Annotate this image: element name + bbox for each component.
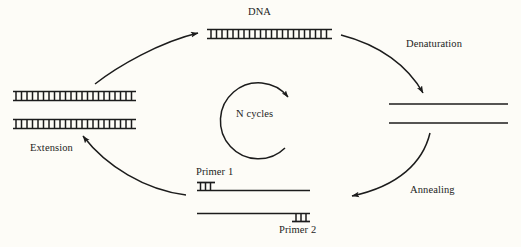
primer2-ladder (292, 214, 310, 222)
arrow-repeat-path (95, 33, 198, 84)
denaturation-label: Denaturation (406, 38, 462, 49)
dna-label: DNA (248, 6, 271, 17)
annealed-primer-strands (197, 183, 310, 222)
pcr-cycle-diagram: DNA Denaturation Annealing Extension N c… (0, 0, 521, 247)
extended-product-lower (13, 120, 136, 129)
primer2-label: Primer 2 (279, 224, 316, 235)
annealing-label: Annealing (410, 184, 455, 195)
arrow-extension-path (83, 136, 186, 195)
arrow-n-cycles-path (220, 83, 288, 159)
n-cycles-label: N cycles (236, 108, 273, 119)
primer1-ladder (197, 183, 215, 191)
primer1-label: Primer 1 (196, 166, 233, 177)
extension-label: Extension (30, 142, 73, 153)
dna-template-duplex (207, 30, 332, 39)
denatured-single-strands (389, 104, 508, 123)
extended-product-upper (13, 92, 136, 101)
